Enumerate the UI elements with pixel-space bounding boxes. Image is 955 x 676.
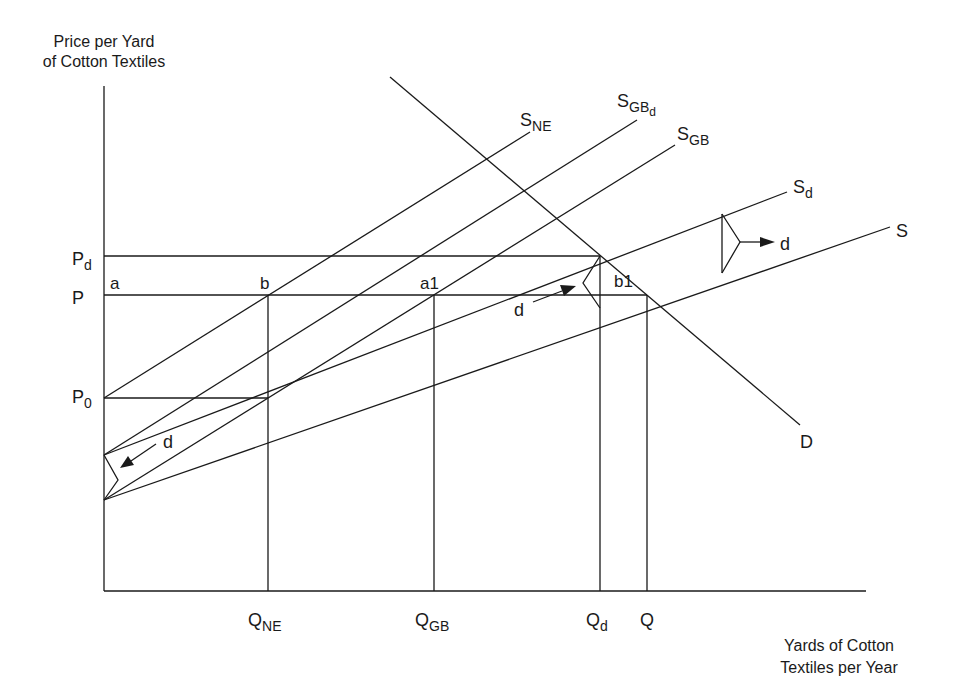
- shift-label-middle: d: [514, 300, 524, 320]
- arrow-right-head: [760, 237, 775, 247]
- label-sgbd: SGBd: [617, 91, 656, 119]
- y-axis-label-line1: Price per Yard: [54, 33, 155, 50]
- shift-bracket-middle: [583, 256, 600, 308]
- supply-d-curve: [104, 192, 787, 455]
- supply-ne-curve: [104, 132, 530, 398]
- demand-curve: [390, 77, 800, 425]
- arrow-left-shaft: [128, 444, 156, 463]
- shift-label-left: d: [163, 432, 173, 452]
- tick-pd: Pd: [72, 249, 92, 273]
- arrow-middle-shaft: [533, 291, 562, 302]
- label-s: S: [896, 221, 908, 241]
- point-a: a: [110, 274, 120, 293]
- shift-bracket-right: [722, 214, 740, 273]
- label-sd: Sd: [793, 177, 813, 201]
- supply-demand-diagram: Price per Yard of Cotton Textiles Yards …: [0, 0, 955, 676]
- shift-label-right: d: [780, 234, 790, 254]
- tick-q: Q: [640, 610, 654, 630]
- y-axis-label-line2: of Cotton Textiles: [43, 53, 165, 70]
- tick-qd: Qd: [586, 610, 608, 634]
- arrow-left-head: [120, 456, 134, 468]
- point-b1: b1: [614, 272, 633, 291]
- point-a1: a1: [420, 274, 439, 293]
- supply-s-curve: [104, 227, 890, 500]
- tick-p: P: [72, 288, 84, 308]
- tick-qgb: QGB: [415, 610, 449, 634]
- label-sne: SNE: [520, 110, 551, 134]
- supply-gbd-curve: [104, 120, 637, 455]
- x-axis-label-line1: Yards of Cotton: [784, 637, 894, 654]
- tick-qne: QNE: [248, 610, 281, 634]
- label-d: D: [800, 432, 813, 452]
- label-sgb: SGB: [677, 124, 709, 148]
- point-b: b: [260, 274, 269, 293]
- supply-gb-curve: [104, 145, 675, 500]
- tick-p0: P0: [72, 387, 92, 411]
- x-axis-label-line2: Textiles per Year: [780, 659, 898, 676]
